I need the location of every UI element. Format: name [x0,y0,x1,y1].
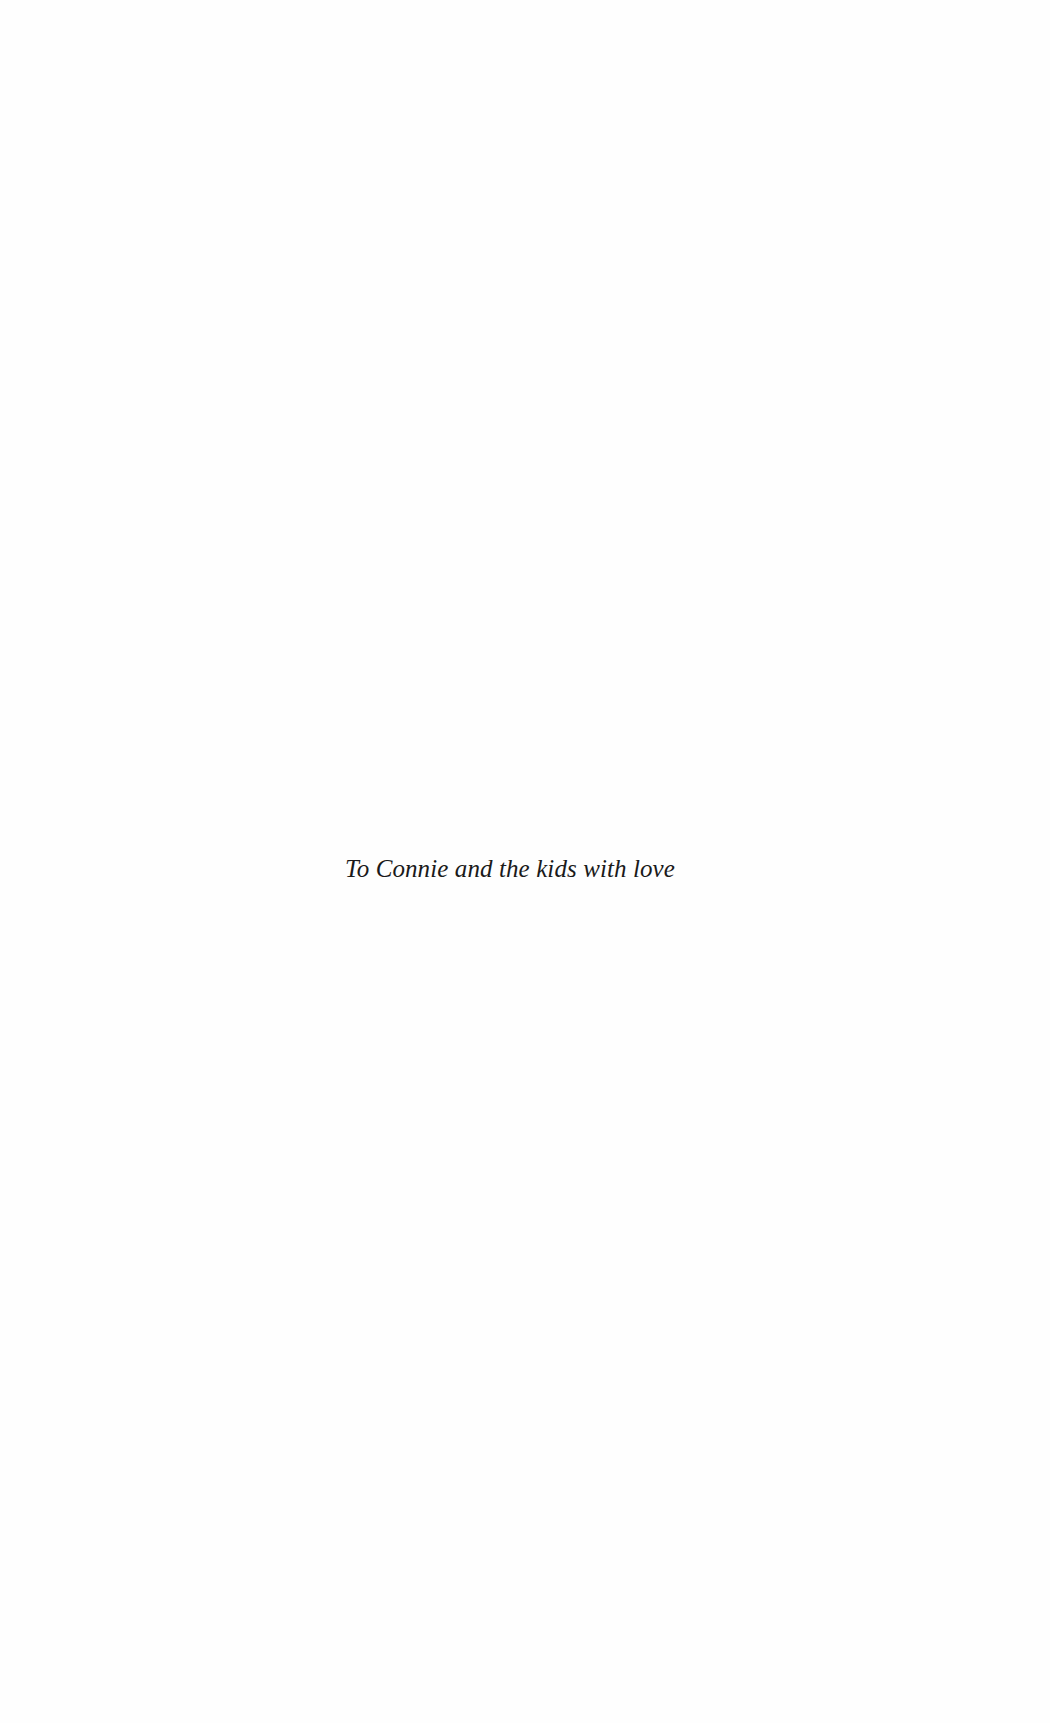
book-page: To Connie and the kids with love [0,0,1050,1723]
dedication-text: To Connie and the kids with love [0,853,1020,885]
